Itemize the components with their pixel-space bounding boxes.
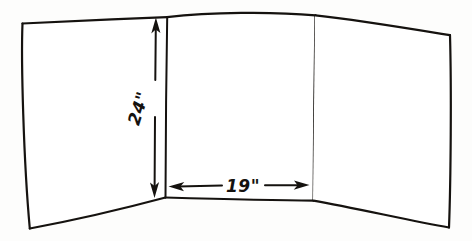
vertical-dim-upper-shaft bbox=[155, 27, 156, 80]
right-panel bbox=[313, 15, 451, 228]
left-panel bbox=[22, 17, 167, 229]
right-panel-face bbox=[313, 15, 450, 227]
sketch-canvas: 24" 19" bbox=[0, 0, 472, 241]
width-dimension-label: 19" bbox=[226, 176, 260, 196]
center-panel bbox=[165, 13, 316, 201]
trifold-panel-drawing: 24" 19" bbox=[0, 0, 472, 241]
left-panel-face bbox=[22, 17, 167, 228]
horizontal-dim-left-shaft bbox=[178, 186, 222, 187]
center-panel-face bbox=[165, 15, 315, 200]
